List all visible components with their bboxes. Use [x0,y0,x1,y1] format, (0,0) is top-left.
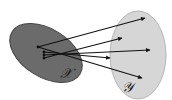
point-x2 [43,51,46,54]
point-x3 [43,54,46,57]
set-y-ellipse [110,11,166,99]
point-x4 [43,57,46,60]
point-x1 [37,46,40,49]
mapping-diagram: 𝒳 𝒴 [0,0,172,100]
